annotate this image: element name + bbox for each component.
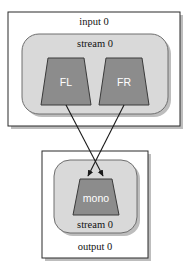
input-container[interactable]: input 0 stream 0 FL FR [8,12,183,129]
channel-fl-label: FL [60,76,72,88]
output-stream-group[interactable]: stream 0 mono [54,160,140,236]
channel-mono-label: mono [83,192,109,204]
channel-fr-label: FR [117,76,131,88]
input-stream-group[interactable]: stream 0 FL FR [22,34,171,117]
output-container[interactable]: output 0 stream 0 mono [42,151,151,261]
channel-node-fr[interactable]: FR [99,58,149,105]
output-container-label: output 0 [78,241,113,252]
channel-node-mono[interactable]: mono [73,179,119,215]
output-stream-label: stream 0 [77,219,113,230]
input-container-label: input 0 [79,16,108,27]
channel-node-fl[interactable]: FL [41,58,91,105]
channel-layout-diagram: input 0 stream 0 FL FR [0,0,190,270]
diagram-canvas: input 0 stream 0 FL FR [0,0,190,270]
input-stream-label: stream 0 [77,38,113,49]
